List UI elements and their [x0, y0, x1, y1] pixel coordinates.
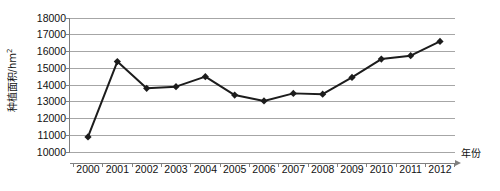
data-point-marker	[172, 83, 179, 90]
x-axis-tick-label: 2012	[418, 163, 462, 175]
data-line-series	[88, 41, 440, 136]
data-point-marker	[407, 52, 414, 59]
series-polyline	[88, 41, 440, 136]
x-axis-tick-labels: 2000200120022003200420052006200720082009…	[0, 163, 500, 179]
data-point-marker	[436, 38, 443, 45]
data-point-marker	[260, 97, 267, 104]
x-axis-title: 年份	[461, 148, 481, 160]
y-axis-tick-marks	[66, 18, 70, 152]
data-point-marker	[290, 90, 297, 97]
data-point-marker	[84, 133, 91, 140]
gridlines	[70, 18, 456, 152]
line-chart: 种植面积/hm2 1000011000120001300014000150001…	[0, 0, 500, 191]
data-point-markers	[84, 38, 443, 141]
